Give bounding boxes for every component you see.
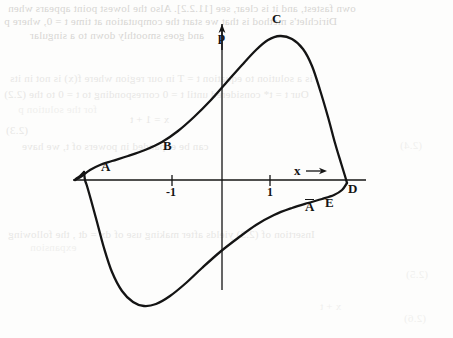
x-tick-label-plus-one: 1 [267, 186, 273, 198]
curve-lower-branch [84, 172, 347, 306]
point-label-e: E [325, 196, 334, 209]
x-axis-label: x [294, 164, 301, 177]
x-tick-label-minus-one: -1 [166, 186, 176, 198]
p-axis-label: p [218, 30, 225, 43]
point-label-abar: A [305, 199, 314, 213]
point-label-b: B [163, 139, 172, 152]
point-label-a: A [101, 160, 110, 173]
phase-plane-figure [0, 0, 453, 338]
curve-upper-branch [75, 36, 347, 183]
point-label-c: C [272, 12, 281, 25]
point-label-d: D [348, 182, 357, 195]
scanned-page: own fastest, and it is clear, see [11.2.… [0, 0, 453, 338]
overbar-accent: A [305, 199, 314, 213]
